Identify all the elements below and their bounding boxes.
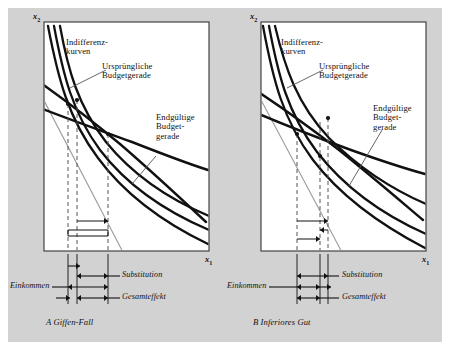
tangency-point-compensated [326, 116, 330, 120]
indifference-curves-label: Indifferenz- kurven [66, 38, 108, 57]
panel-caption: B Inferiores Gut [253, 318, 311, 327]
original-budget-label: Ursprüngliche Budgetgerade [102, 62, 152, 81]
indifference-curves-label: Indifferenz- kurven [281, 38, 323, 57]
effect-arrows [52, 254, 120, 304]
figure-board: x2 x1 [8, 8, 442, 342]
panel-caption: A Giffen-Fall [46, 318, 93, 327]
tangency-point-compensated [75, 98, 79, 102]
effect-arrows [269, 254, 339, 304]
substitution-label: Substitution [342, 271, 382, 280]
gesamteffekt-label: Gesamteffekt [122, 293, 166, 302]
tangency-point-original [295, 132, 299, 136]
tangency-point-final [318, 154, 322, 158]
tangency-point-original [106, 132, 110, 136]
figure-page: x2 x1 [0, 0, 450, 356]
panel-inferior-good: x2 x1 [225, 8, 442, 342]
einkommen-label: Einkommen [10, 282, 50, 291]
einkommen-label: Einkommen [227, 282, 267, 291]
final-budget-label: Endgültige Budget- gerade [156, 113, 195, 141]
panel-a-graphics [8, 8, 225, 342]
tangency-point-final [66, 102, 70, 106]
gesamteffekt-label: Gesamteffekt [342, 293, 386, 302]
substitution-label: Substitution [122, 271, 162, 280]
panel-giffen-case: x2 x1 [8, 8, 225, 342]
panel-b-graphics [225, 8, 442, 342]
original-budget-label: Ursprüngliche Budgetgerade [319, 62, 369, 81]
final-budget-label: Endgültige Budget- gerade [373, 104, 412, 132]
